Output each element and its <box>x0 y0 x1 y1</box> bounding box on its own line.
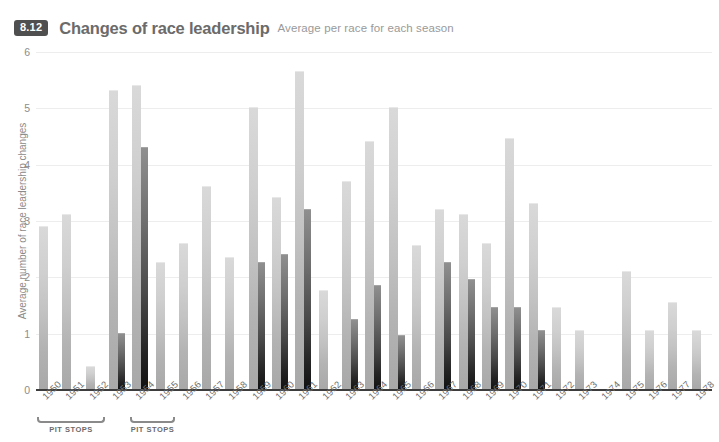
bar-1961 <box>295 71 304 390</box>
bar-1960 <box>272 197 281 390</box>
bracket-shape <box>130 417 175 423</box>
bar-1953 <box>109 90 118 390</box>
bar-1956 <box>179 243 188 390</box>
chart-header: 8.12 Changes of race leadership Average … <box>14 17 454 39</box>
bar-1969 <box>482 243 491 390</box>
bar-overlay-1961 <box>304 209 311 390</box>
bar-1976 <box>645 330 654 390</box>
bar-1973 <box>575 330 584 390</box>
gridline <box>36 52 712 53</box>
y-axis-tick-label: 1 <box>24 328 30 340</box>
bar-1954 <box>132 85 141 390</box>
bracket-shape <box>37 417 105 423</box>
page-title: Changes of race leadership <box>59 19 269 38</box>
bar-1971 <box>529 203 538 390</box>
pit-stops-label: PIT STOPS <box>130 425 175 434</box>
bar-overlay-1959 <box>258 262 265 390</box>
bar-1966 <box>412 245 421 390</box>
bar-1962 <box>319 290 328 390</box>
bar-1950 <box>39 226 48 390</box>
page-subtitle: Average per race for each season <box>278 22 454 34</box>
chart-page: 8.12 Changes of race leadership Average … <box>0 0 719 442</box>
bar-overlay-1964 <box>374 285 381 390</box>
bar-1968 <box>459 214 468 390</box>
bar-overlay-1954 <box>141 147 148 390</box>
bar-overlay-1960 <box>281 254 288 390</box>
bar-overlay-1968 <box>468 279 475 390</box>
bar-1977 <box>668 302 677 390</box>
plot-area: 0123456 Average number of race leadershi… <box>36 52 712 390</box>
bar-1970 <box>505 138 514 390</box>
y-axis-tick-label: 5 <box>24 102 30 114</box>
bar-1963 <box>342 181 351 390</box>
bar-1964 <box>365 141 374 390</box>
bar-1955 <box>156 262 165 390</box>
bar-1975 <box>622 271 631 390</box>
bar-1959 <box>249 107 258 390</box>
bar-overlay-1970 <box>514 307 521 390</box>
bar-1972 <box>552 307 561 390</box>
bar-1951 <box>62 214 71 390</box>
pit-stops-label: PIT STOPS <box>37 425 105 434</box>
y-axis-label: Average number of race leadership change… <box>17 123 28 320</box>
bar-overlay-1969 <box>491 307 498 390</box>
bar-1967 <box>435 209 444 390</box>
bar-1965 <box>389 107 398 390</box>
y-axis-tick-label: 6 <box>24 46 30 58</box>
bar-1978 <box>692 330 701 390</box>
bar-1958 <box>225 257 234 390</box>
y-axis-tick-label: 0 <box>24 384 30 396</box>
figure-number-badge: 8.12 <box>14 20 48 36</box>
bar-overlay-1967 <box>444 262 451 390</box>
bar-1957 <box>202 186 211 390</box>
